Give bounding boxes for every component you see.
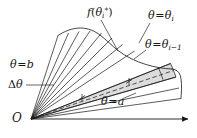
- theta-symbol: θ: [10, 58, 17, 71]
- delta-theta-label: Δθ: [8, 79, 23, 90]
- delta-symbol: Δ: [8, 78, 16, 91]
- close-paren: ): [108, 6, 112, 19]
- theta-equals-a-label: θ=a: [101, 96, 124, 107]
- theta-equals-theta-i-minus-1-label: θ=θi−1: [145, 39, 182, 51]
- theta-symbol: θ: [145, 38, 152, 51]
- theta-symbol: θ: [101, 95, 108, 108]
- subscript-i: i: [171, 14, 173, 23]
- equals-sign: =: [155, 9, 165, 22]
- origin-label: O: [12, 112, 22, 124]
- b-value: b: [27, 58, 34, 71]
- theta-symbol: θ: [16, 78, 23, 91]
- polar-sector-area-figure: f(θi*) θ=θi θ=θi−1 θ=b Δθ θ=a O: [0, 0, 197, 138]
- equals-sign: =: [152, 38, 162, 51]
- a-value: a: [118, 95, 125, 108]
- subscript-i-minus-1: i−1: [168, 43, 181, 52]
- theta-equals-theta-i-label: θ=θi: [148, 10, 174, 22]
- equals-sign: =: [108, 95, 118, 108]
- function-value-label: f(θi*): [87, 7, 113, 20]
- theta-equals-b-label: θ=b: [10, 59, 34, 70]
- theta-symbol: θ: [148, 9, 155, 22]
- equals-sign: =: [17, 58, 27, 71]
- theta-symbol: θ: [95, 6, 102, 19]
